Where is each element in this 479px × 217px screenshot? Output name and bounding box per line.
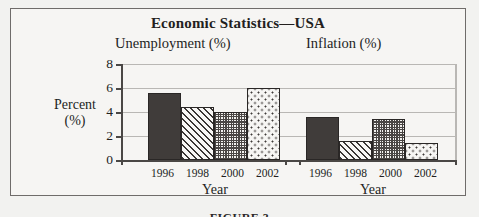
x-tick-unemployment-end xyxy=(285,160,287,165)
x-axis-unemployment xyxy=(121,160,286,162)
bar-unemployment-2000[interactable] xyxy=(214,112,247,160)
bar-inflation-1996[interactable] xyxy=(306,117,339,160)
y-tick-6 xyxy=(116,88,121,90)
right-axis-line xyxy=(455,64,457,160)
panel-subtitle-unemployment: Unemployment (%) xyxy=(115,35,231,52)
y-axis-title: Percent (%) xyxy=(39,97,111,129)
bar-unemployment-2002[interactable] xyxy=(247,88,280,160)
y-tick-label-4: 4 xyxy=(106,105,113,119)
y-tick-label-2: 2 xyxy=(106,129,113,143)
plot-area: 8 6 4 2 0 1996 1998 2000 2002 1996 1998 xyxy=(121,64,457,160)
panel-subtitle-inflation: Inflation (%) xyxy=(306,35,381,52)
gridline-8 xyxy=(121,64,457,65)
x-label-inflation-2000: 2000 xyxy=(373,167,408,179)
x-tick-inflation-end xyxy=(455,160,457,165)
x-tick-unemployment-start xyxy=(121,160,123,165)
x-label-inflation-1996: 1996 xyxy=(303,167,338,179)
bar-inflation-1998[interactable] xyxy=(339,141,372,160)
bar-unemployment-1996[interactable] xyxy=(148,93,181,160)
bar-inflation-2000[interactable] xyxy=(372,119,405,160)
x-axis-title-unemployment: Year xyxy=(145,182,285,198)
y-tick-8 xyxy=(116,64,121,66)
y-tick-label-0: 0 xyxy=(106,153,113,167)
gridline-6 xyxy=(121,88,457,89)
figure-frame: Economic Statistics—USA Unemployment (%)… xyxy=(10,8,466,196)
x-label-unemployment-2002: 2002 xyxy=(250,167,285,179)
x-tick-labels-unemployment: 1996 1998 2000 2002 xyxy=(145,167,285,179)
x-tick-labels-inflation: 1996 1998 2000 2002 xyxy=(303,167,443,179)
x-label-unemployment-2000: 2000 xyxy=(215,167,250,179)
y-tick-2 xyxy=(116,136,121,138)
y-axis-title-line1: Percent xyxy=(39,97,111,113)
bar-inflation-2002[interactable] xyxy=(405,143,438,160)
x-label-unemployment-1996: 1996 xyxy=(145,167,180,179)
y-tick-label-6: 6 xyxy=(106,81,113,95)
x-tick-inflation-start xyxy=(299,160,301,165)
x-axis-title-inflation: Year xyxy=(303,182,443,198)
x-label-inflation-1998: 1998 xyxy=(338,167,373,179)
x-label-inflation-2002: 2002 xyxy=(408,167,443,179)
panel-subtitles: Unemployment (%) Inflation (%) xyxy=(11,35,465,55)
x-axis-inflation xyxy=(299,160,456,162)
y-tick-4 xyxy=(116,112,121,114)
y-tick-label-8: 8 xyxy=(106,57,113,71)
chart-title: Economic Statistics—USA xyxy=(11,15,465,32)
y-axis-title-line2: (%) xyxy=(39,113,111,129)
y-axis-line xyxy=(121,64,123,160)
figure-caption: FIGURE 3 xyxy=(0,211,479,217)
x-label-unemployment-1998: 1998 xyxy=(180,167,215,179)
bar-unemployment-1998[interactable] xyxy=(181,107,214,160)
